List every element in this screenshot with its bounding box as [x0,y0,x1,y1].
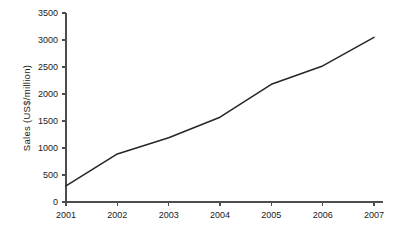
chart-canvas: 0500100015002000250030003500 20012002200… [0,0,404,237]
x-tick-label: 2005 [261,210,281,220]
x-tick-label: 2004 [210,210,230,220]
y-axis-title: Sales (US$/million) [21,65,32,151]
y-tick-label: 2000 [38,89,58,99]
y-tick-label: 3500 [38,8,58,18]
y-tick-label: 1500 [38,116,58,126]
x-tick-label: 2002 [107,210,127,220]
sales-line-chart: 0500100015002000250030003500 20012002200… [0,0,404,237]
x-tick-label: 2006 [313,210,333,220]
y-tick-label: 2500 [38,62,58,72]
x-tick-label: 2007 [364,210,384,220]
y-tick-label: 0 [53,197,58,207]
y-tick-label: 1000 [38,143,58,153]
x-tick-label: 2001 [56,210,76,220]
y-tick-label: 500 [43,170,58,180]
y-tick-label: 3000 [38,35,58,45]
x-tick-label: 2003 [159,210,179,220]
